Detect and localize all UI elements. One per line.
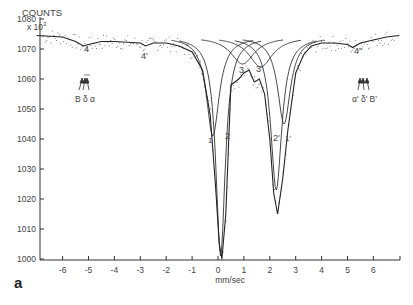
peak-label-1-prime: 1' xyxy=(285,134,291,143)
y-tick-label: 1050 xyxy=(17,104,36,114)
x-tick-label: 3 xyxy=(293,265,298,275)
peak-label-4-double-prime: 4'' xyxy=(354,46,363,56)
y-tick-label: 1070 xyxy=(17,44,36,54)
y-tick-label: 1040 xyxy=(17,134,36,144)
x-tick-label: -1 xyxy=(188,265,196,275)
peak-label-4-prime: 4' xyxy=(141,51,148,61)
x-ticks: -6-5-4-3-2-10123456 xyxy=(59,256,376,275)
y-tick-label: 1020 xyxy=(17,194,36,204)
peak-label-3-prime: 3' xyxy=(256,64,263,74)
component-line xyxy=(179,41,261,256)
x-tick-label: 2 xyxy=(267,265,272,275)
x-tick-label: 6 xyxy=(371,265,376,275)
x-tick-label: 4 xyxy=(319,265,324,275)
component-line xyxy=(171,40,253,136)
peak-label-1: 1 xyxy=(208,136,213,145)
y-axis-title: COUNTS xyxy=(22,7,62,18)
left-line-arrows xyxy=(79,75,90,90)
y-tick-label: 1030 xyxy=(17,164,36,174)
peak-label-2: 2 xyxy=(225,131,230,141)
x-tick-label: -2 xyxy=(162,265,170,275)
figure-panel-label: a xyxy=(14,274,23,291)
mossbauer-spectrum-chart: 100010101020103010401050106010701080 -6-… xyxy=(0,0,413,305)
right-line-arrows xyxy=(358,78,369,90)
peak-label-3: 3 xyxy=(239,65,244,75)
x-tick-label: 5 xyxy=(345,265,350,275)
y-tick-label: 1010 xyxy=(17,224,36,234)
x-axis-title: mm/sec xyxy=(215,275,246,285)
x-tick-label: 0 xyxy=(216,265,221,275)
peak-label-2-prime: 2' xyxy=(273,133,280,143)
y-tick-label: 1060 xyxy=(17,74,36,84)
fitted-envelope-curve xyxy=(37,36,400,260)
right-line-labels: α' δ' B' xyxy=(352,94,377,104)
x-tick-label: 1 xyxy=(242,265,247,275)
peak-label-4: 4 xyxy=(84,44,89,54)
component-curves xyxy=(171,40,324,256)
component-line xyxy=(235,41,317,190)
y-tick-label: 1000 xyxy=(17,254,36,264)
y-axis-multiplier: x 103 xyxy=(27,21,47,32)
x-tick-label: -4 xyxy=(111,265,119,275)
left-line-labels: B δ α xyxy=(75,94,95,104)
x-tick-label: -5 xyxy=(85,265,93,275)
x-tick-label: -6 xyxy=(59,265,67,275)
x-tick-label: -3 xyxy=(137,265,145,275)
